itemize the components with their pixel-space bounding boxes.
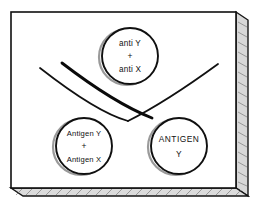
antigen-mixture-well: Antigen Y + Antigen X (53, 118, 112, 175)
antigen-mixture-well-plus: + (81, 141, 86, 151)
immunodiffusion-figure: anti Y + anti X Antigen Y + Antigen X AN… (0, 0, 259, 214)
antibody-well: anti Y + anti X (99, 28, 158, 85)
antigen-mixture-well-line-1: Antigen Y (67, 129, 102, 138)
antigen-mixture-well-line-2: Antigen X (67, 155, 102, 164)
antibody-well-line-1: anti Y (119, 39, 141, 48)
antibody-well-plus: + (127, 51, 132, 61)
antibody-well-line-2: anti X (119, 65, 141, 74)
antigen-y-well-outline (151, 118, 207, 174)
antigen-y-well-line-2: Y (176, 149, 182, 159)
antigen-y-well-line-1: ANTIGEN (159, 134, 200, 144)
plate-svg: anti Y + anti X Antigen Y + Antigen X AN… (0, 0, 259, 214)
antigen-y-well: ANTIGEN Y (148, 118, 207, 175)
